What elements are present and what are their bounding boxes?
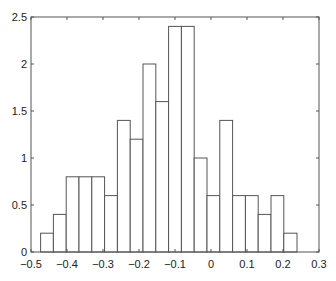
histogram-bar <box>117 120 130 252</box>
y-tick-label: 1 <box>21 152 27 164</box>
histogram-bar <box>53 214 66 252</box>
histogram-bar <box>143 64 156 252</box>
x-tick-label: 0 <box>208 258 214 270</box>
histogram-bar <box>245 196 258 252</box>
histogram-bar <box>271 196 284 252</box>
histogram-bar <box>169 26 182 252</box>
x-tick-label: −0.3 <box>92 258 114 270</box>
x-tick-label: −0.5 <box>20 258 42 270</box>
histogram-bar <box>233 196 246 252</box>
y-tick-label: 1.5 <box>12 105 27 117</box>
y-tick-label: 0.5 <box>12 199 27 211</box>
x-tick-label: −0.2 <box>128 258 150 270</box>
histogram-bar <box>92 177 105 252</box>
y-tick-label: 0 <box>21 246 27 258</box>
histogram-bar <box>66 177 79 252</box>
histogram-bar <box>41 233 54 252</box>
x-tick-label: −0.4 <box>56 258 78 270</box>
histogram-bar <box>220 120 233 252</box>
histogram-bar <box>105 196 118 252</box>
histogram-bar <box>194 158 207 252</box>
histogram-bar <box>130 139 143 252</box>
x-tick-label: 0.2 <box>275 258 290 270</box>
x-tick-label: −0.1 <box>164 258 186 270</box>
histogram-bar <box>207 196 220 252</box>
x-tick-label: 0.1 <box>239 258 254 270</box>
histogram-bar <box>181 26 194 252</box>
histogram-bar <box>79 177 92 252</box>
histogram-bar <box>284 233 297 252</box>
histogram-chart: −0.5−0.4−0.3−0.2−0.100.10.20.3 00.511.52… <box>0 0 336 281</box>
histogram-bar <box>258 214 271 252</box>
y-tick-label: 2 <box>21 58 27 70</box>
x-tick-label: 0.3 <box>311 258 326 270</box>
histogram-bar <box>156 102 169 252</box>
y-tick-label: 2.5 <box>12 11 27 23</box>
